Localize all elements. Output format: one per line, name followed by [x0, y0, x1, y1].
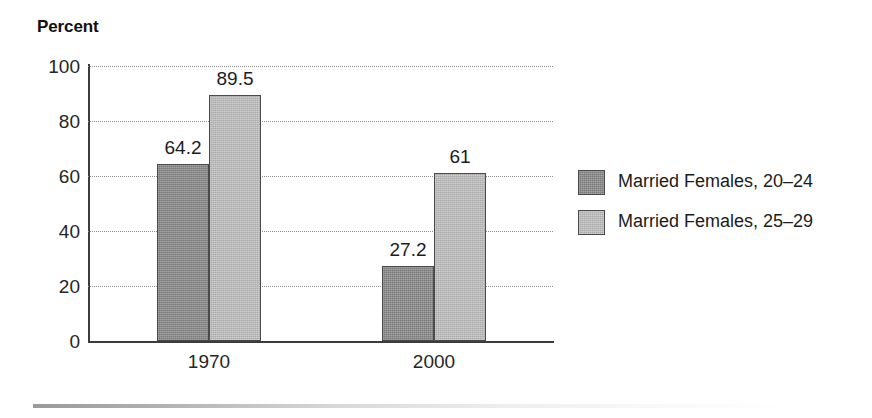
- legend-item-label: Married Females, 20–24: [618, 168, 813, 196]
- dark-gray-swatch: [578, 170, 605, 195]
- chart-axis-title: Percent: [37, 17, 99, 37]
- y-axis-tick-label: 0: [28, 332, 80, 351]
- gridline: [88, 121, 553, 123]
- y-axis-tick-labels: 100806040200: [20, 66, 80, 341]
- light-gray-swatch: [578, 210, 605, 235]
- chart-legend: Married Females, 20–24Married Females, 2…: [578, 168, 868, 248]
- y-axis-tick-label: 100: [28, 57, 80, 76]
- bar: [209, 95, 261, 341]
- legend-item-label: Married Females, 25–29: [618, 208, 813, 236]
- legend-item[interactable]: Married Females, 25–29: [578, 208, 868, 248]
- bar: [382, 266, 434, 341]
- bar: [157, 164, 209, 341]
- bar-chart-figure: Percent 100806040200 64.289.527.261 1970…: [0, 0, 872, 418]
- y-axis-tick-label: 80: [28, 112, 80, 131]
- bar: [434, 173, 486, 341]
- x-axis-tick-label: 1970: [127, 352, 291, 371]
- gridline: [88, 66, 553, 68]
- y-axis-tick-label: 60: [28, 167, 80, 186]
- bottom-divider-rule: [33, 404, 833, 408]
- bar-value-label: 89.5: [195, 69, 275, 88]
- bar-value-label: 61: [420, 147, 500, 166]
- x-axis-tick-label: 2000: [352, 352, 516, 371]
- x-axis-line: [88, 341, 554, 343]
- y-axis-tick-label: 20: [28, 277, 80, 296]
- legend-item[interactable]: Married Females, 20–24: [578, 168, 868, 208]
- y-axis-tick-label: 40: [28, 222, 80, 241]
- plot-area: 64.289.527.261: [88, 66, 553, 341]
